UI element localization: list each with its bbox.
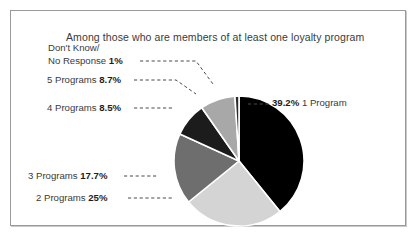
slice-label-4-programs: 4 Programs 8.5%: [47, 102, 121, 115]
slice-value-5-programs: 8.7%: [99, 74, 121, 85]
slice-name-4-programs: 4 Programs: [47, 102, 97, 113]
slice-label-2-programs: 2 Programs 25%: [36, 192, 107, 205]
slice-name-1-program: 1 Program: [302, 97, 347, 108]
slice-label-1-program: 39.2% 1 Program: [272, 97, 347, 110]
slice-name-2-programs: 2 Programs: [36, 192, 86, 203]
pie-chart: [173, 95, 305, 227]
slice-value-1-program: 39.2%: [272, 97, 299, 108]
slice-value-4-programs: 8.5%: [99, 102, 121, 113]
slice-value-2-programs: 25%: [88, 192, 107, 203]
slice-name-3-programs: 3 Programs: [28, 170, 78, 181]
slice-name-5-programs: 5 Programs: [47, 74, 97, 85]
slice-label-dont-know-line2: No Response: [48, 55, 106, 66]
slice-label-dont-know-line1: Don't Know/: [48, 42, 123, 55]
slice-label-dont-know: Don't Know/ No Response 1%: [48, 42, 123, 67]
slice-value-dont-know: 1%: [109, 55, 123, 66]
pie-svg: [173, 95, 305, 227]
slice-label-5-programs: 5 Programs 8.7%: [47, 74, 121, 87]
slice-label-3-programs: 3 Programs 17.7%: [28, 170, 107, 183]
slice-value-3-programs: 17.7%: [80, 170, 107, 181]
